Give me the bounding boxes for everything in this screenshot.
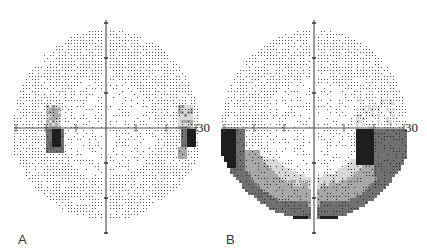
panel-b-plot (221, 20, 407, 234)
panel-b-axis-max-label: 30 (405, 120, 418, 136)
panel-a-plot (14, 20, 198, 234)
panel-b-label: B (226, 232, 235, 247)
visual-field-figure: 30 30 A B (0, 0, 427, 248)
visual-field-plots (0, 0, 427, 248)
panel-a-axis-max-label: 30 (197, 120, 210, 136)
panel-a-label: A (18, 232, 27, 247)
